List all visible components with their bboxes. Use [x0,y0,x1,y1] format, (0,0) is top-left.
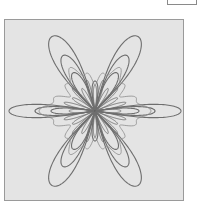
answer-box [167,0,197,5]
polar-curves-figure [5,20,183,200]
figure-panel [4,19,184,201]
